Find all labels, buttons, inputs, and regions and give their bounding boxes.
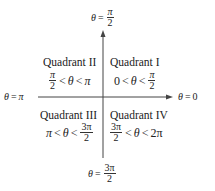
theta-symbol: θ [91, 13, 96, 23]
axis-value: 0 [193, 92, 198, 102]
theta-symbol: θ [88, 169, 93, 179]
axis-label-bottom: θ = 3π 2 [88, 163, 117, 184]
quadrant-4-range: 3π 2 < θ < 2π [109, 122, 163, 143]
quadrant-3-label: Quadrant III [40, 109, 97, 121]
bound-value: 2π [151, 127, 163, 139]
less-than: < [59, 75, 66, 87]
less-than: < [139, 75, 146, 87]
theta-symbol: θ [4, 92, 9, 102]
axis-label-top: θ = π 2 [91, 7, 115, 28]
theta-symbol: θ [134, 127, 140, 139]
quadrant-1-range: 0 < θ < π 2 [114, 70, 156, 91]
equals-sign: = [11, 92, 17, 102]
theta-symbol: θ [68, 75, 74, 87]
fraction: π 2 [107, 7, 114, 28]
denominator: 2 [107, 174, 112, 184]
equals-sign: = [95, 169, 101, 179]
equals-sign: = [185, 92, 191, 102]
denominator: 2 [50, 81, 55, 91]
bound-value: 0 [114, 75, 120, 87]
less-than: < [122, 75, 129, 87]
less-than: < [71, 127, 78, 139]
theta-symbol: θ [131, 75, 137, 87]
less-than: < [125, 127, 132, 139]
axis-label-right: θ = 0 [178, 92, 198, 102]
bound-value: π [84, 75, 90, 87]
equals-sign: = [98, 13, 104, 23]
fraction: 3π 2 [110, 122, 122, 143]
denominator: 2 [108, 18, 113, 28]
fraction: 3π 2 [80, 122, 92, 143]
theta-symbol: θ [63, 127, 69, 139]
denominator: 2 [114, 133, 119, 143]
right-arrow-icon [166, 95, 173, 100]
less-than: < [76, 75, 83, 87]
quadrant-2-range: π 2 < θ < π [48, 70, 91, 91]
bound-value: π [46, 127, 52, 139]
less-than: < [54, 127, 61, 139]
denominator: 2 [149, 81, 154, 91]
quadrant-2-label: Quadrant II [43, 56, 96, 68]
fraction: π 2 [49, 70, 56, 91]
axis-value: π [19, 92, 24, 102]
denominator: 2 [84, 133, 89, 143]
up-arrow-icon [101, 30, 106, 37]
axis-label-left: θ = π [4, 92, 24, 102]
quadrant-3-range: π < θ < 3π 2 [46, 122, 94, 143]
quadrant-4-label: Quadrant IV [110, 109, 168, 121]
theta-symbol: θ [178, 92, 183, 102]
fraction: 3π 2 [104, 163, 116, 184]
less-than: < [142, 127, 149, 139]
fraction: π 2 [148, 70, 155, 91]
quadrant-1-label: Quadrant I [110, 56, 160, 68]
